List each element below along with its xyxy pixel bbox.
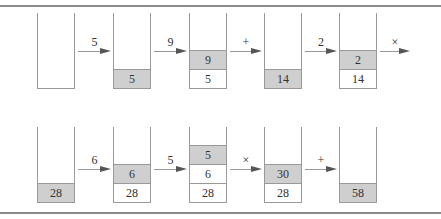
stack-cell: 28	[190, 183, 226, 202]
stack-top-cell: 5	[114, 69, 150, 88]
stack: 28	[37, 127, 75, 203]
stack-top-cell: 9	[190, 50, 226, 69]
operation-arrow: +	[305, 162, 337, 174]
stack: 59	[189, 13, 227, 89]
operation-arrow: ×	[230, 162, 262, 174]
operation-arrow: ×	[380, 44, 410, 56]
arrow-label: 2	[311, 35, 331, 50]
arrow-line	[78, 51, 101, 52]
arrow-line	[154, 51, 177, 52]
arrow-label: ×	[385, 35, 405, 50]
stack-top-cell: 58	[340, 183, 376, 202]
stack-top-cell: 28	[38, 183, 74, 202]
stack-top-cell: 30	[265, 164, 301, 183]
stack-cell: 28	[265, 183, 301, 202]
stack-cell: 28	[114, 183, 150, 202]
arrow-line	[305, 169, 327, 170]
stack: 5	[113, 13, 151, 89]
stack-cell: 5	[190, 69, 226, 88]
arrow-label: +	[236, 35, 256, 50]
stack-cell: 6	[190, 164, 226, 183]
arrow-label: 6	[85, 153, 105, 168]
stack: 14	[264, 13, 302, 89]
arrow-line	[230, 51, 252, 52]
arrow-label: 9	[161, 35, 181, 50]
arrow-line	[230, 169, 252, 170]
stack-top-cell: 2	[340, 50, 376, 69]
operation-arrow: 5	[78, 44, 111, 56]
stack: 58	[339, 127, 377, 203]
stack: 2830	[264, 127, 302, 203]
stack-top-cell: 14	[265, 69, 301, 88]
stack-top-cell: 5	[190, 145, 226, 164]
arrow-line	[78, 169, 101, 170]
arrow-line	[305, 51, 327, 52]
stack: 286	[113, 127, 151, 203]
stack: 142	[339, 13, 377, 89]
stack: 2865	[189, 127, 227, 203]
arrow-label: ×	[236, 153, 256, 168]
operation-arrow: +	[230, 44, 262, 56]
arrow-label: +	[311, 153, 331, 168]
stack-top-cell: 6	[114, 164, 150, 183]
arrow-label: 5	[161, 153, 181, 168]
operation-arrow: 9	[154, 44, 187, 56]
stack-cell: 14	[340, 69, 376, 88]
stack	[37, 13, 75, 89]
operation-arrow: 2	[305, 44, 337, 56]
arrow-line	[380, 51, 400, 52]
arrow-label: 5	[85, 35, 105, 50]
top-rule	[0, 5, 441, 7]
bottom-rule	[0, 212, 441, 214]
operation-arrow: 6	[78, 162, 111, 174]
operation-arrow: 5	[154, 162, 187, 174]
arrow-line	[154, 169, 177, 170]
